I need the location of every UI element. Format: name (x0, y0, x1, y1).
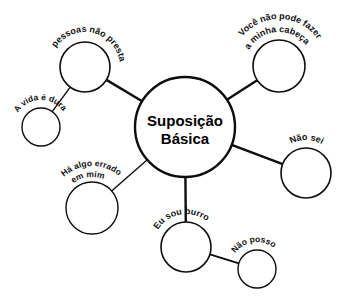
center-node-label-line1: Suposição (147, 112, 223, 129)
connector-voce-nao-pode-fazer-a-minha-cabeca (227, 80, 257, 100)
node-circle-nao-posso[interactable] (238, 250, 276, 288)
mind-map-diagram: As pessoas não prestamA vida é duraVocê … (0, 0, 348, 296)
node-circle-eu-sou-burro[interactable] (161, 222, 211, 272)
connector-nao-sei (232, 145, 283, 164)
mind-map-canvas: As pessoas não prestamA vida é duraVocê … (0, 0, 348, 296)
node-circle-a-vida-e-dura[interactable] (22, 108, 60, 146)
connector-as-pessoas-nao-prestam (106, 80, 142, 101)
node-circle-as-pessoas-nao-prestam[interactable] (60, 42, 110, 92)
node-circle-nao-sei[interactable] (281, 148, 331, 198)
connector-nao-posso (210, 254, 239, 263)
center-node-label-line2: Básica (161, 130, 210, 147)
node-circle-ha-algo-errado-em-mim[interactable] (66, 182, 118, 234)
node-label-nao-sei-line1: Não sei (288, 132, 326, 146)
center-node-group[interactable]: Suposição Básica (135, 77, 235, 177)
node-circle-voce-nao-pode-fazer-a-minha-cabeca[interactable] (253, 40, 305, 92)
